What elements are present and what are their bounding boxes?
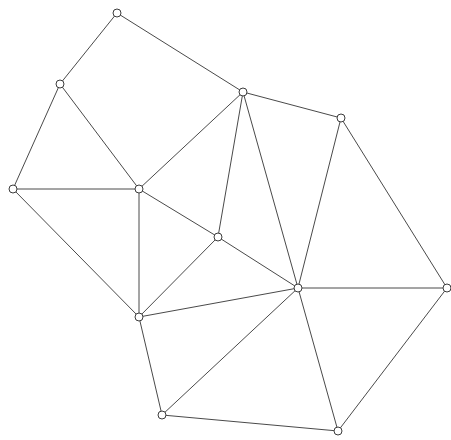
graph-edge bbox=[341, 118, 447, 288]
graph-edge bbox=[139, 189, 218, 237]
graph-vertex[interactable] bbox=[158, 411, 166, 419]
graph-vertex[interactable] bbox=[135, 313, 143, 321]
graph-vertex[interactable] bbox=[113, 9, 121, 17]
graph-edge bbox=[13, 189, 139, 317]
graph-edge bbox=[298, 288, 338, 431]
graph-edge bbox=[117, 13, 243, 92]
graph-vertex[interactable] bbox=[294, 284, 302, 292]
graph-edge bbox=[13, 84, 60, 189]
graph-edge bbox=[162, 415, 338, 431]
graph-figure bbox=[0, 0, 451, 440]
graph-edge bbox=[60, 84, 139, 189]
vertex-layer bbox=[9, 9, 451, 435]
graph-vertex[interactable] bbox=[334, 427, 342, 435]
graph-vertex[interactable] bbox=[443, 284, 451, 292]
graph-edge bbox=[139, 317, 162, 415]
graph-vertex[interactable] bbox=[239, 88, 247, 96]
graph-edge bbox=[243, 92, 341, 118]
edge-layer bbox=[13, 13, 447, 431]
graph-vertex[interactable] bbox=[56, 80, 64, 88]
graph-edge bbox=[218, 92, 243, 237]
graph-vertex[interactable] bbox=[214, 233, 222, 241]
graph-vertex[interactable] bbox=[9, 185, 17, 193]
graph-edge bbox=[60, 13, 117, 84]
graph-canvas bbox=[0, 0, 451, 440]
graph-edge bbox=[162, 288, 298, 415]
graph-vertex[interactable] bbox=[337, 114, 345, 122]
graph-edge bbox=[139, 92, 243, 189]
graph-edge bbox=[298, 118, 341, 288]
graph-edge bbox=[338, 288, 447, 431]
graph-vertex[interactable] bbox=[135, 185, 143, 193]
